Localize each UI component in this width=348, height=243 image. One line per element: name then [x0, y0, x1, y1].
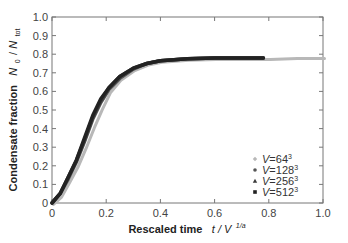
y-axis-math-num-sub: 0 — [14, 59, 21, 63]
y-tick-label: 0.8 — [33, 48, 48, 60]
legend: V=643V=1283V=2563V=5123 — [253, 153, 298, 198]
x-axis-title-text: Rescaled time — [128, 223, 202, 235]
series-v128 — [52, 58, 263, 203]
series-line — [52, 58, 263, 203]
series-v512 — [52, 58, 263, 203]
x-tick-label: 0.4 — [153, 207, 168, 219]
y-tick-label: 0.5 — [33, 104, 48, 116]
x-tick-label: 1.0 — [315, 207, 330, 219]
x-axis-title-sup: 1/a — [236, 222, 246, 229]
y-axis-math-den-sub: tot — [14, 29, 21, 37]
series-v256 — [52, 58, 263, 203]
y-axis-math-num: N — [7, 68, 19, 76]
series-line — [52, 58, 263, 203]
y-tick-label: 0.2 — [33, 160, 48, 172]
x-tick-label: 0.6 — [207, 207, 222, 219]
legend-label: V=5123 — [262, 186, 298, 198]
y-tick-label: 0.4 — [33, 123, 48, 135]
y-axis-title: Condensate fraction N 0 / N tot — [3, 29, 23, 192]
y-axis-title-text: Condensate fraction — [7, 85, 19, 192]
legend-marker-square-icon — [253, 190, 257, 194]
legend-item: V=5123 — [253, 186, 298, 198]
x-tick-label: 0.2 — [99, 207, 114, 219]
x-axis-title-math: t / V — [212, 223, 233, 235]
y-tick-label: 0 — [42, 197, 48, 209]
legend-marker-diamond-icon — [253, 157, 257, 161]
y-tick-label: 0.3 — [33, 141, 48, 153]
chart: 00.20.40.60.81.0 00.10.20.30.40.50.60.70… — [0, 0, 348, 243]
y-tick-label: 0.1 — [33, 178, 48, 190]
y-tick-label: 1.0 — [33, 11, 48, 23]
legend-marker-triangle-icon — [253, 179, 257, 183]
x-tick-label: 0 — [49, 207, 55, 219]
series-line — [52, 58, 263, 203]
x-tick-label: 0.8 — [261, 207, 276, 219]
y-tick-label: 0.7 — [33, 67, 48, 79]
legend-marker-circle-icon — [253, 168, 257, 172]
y-tick-label: 0.9 — [33, 30, 48, 42]
y-axis-math-den: N — [7, 41, 19, 49]
y-tick-label: 0.6 — [33, 85, 48, 97]
x-axis-title: Rescaled time t / V 1/a — [128, 219, 245, 236]
